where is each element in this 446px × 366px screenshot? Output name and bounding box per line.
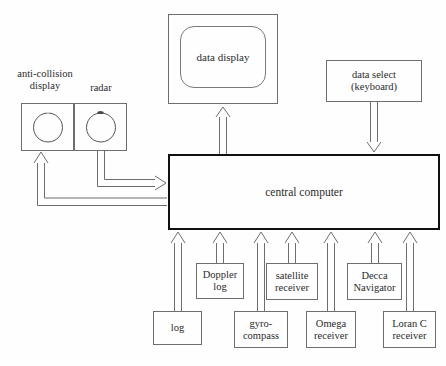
arrow-doppler-log-to-computer bbox=[213, 232, 227, 263]
sensor-label-line2: log bbox=[203, 281, 237, 293]
sensor-label-line1: gyro- bbox=[243, 318, 279, 330]
anti-collision-display-label-line1: anti-collision bbox=[17, 68, 72, 79]
sensor-box-decca-navigator[interactable]: DeccaNavigator bbox=[347, 263, 402, 300]
sensor-label-line2: compass bbox=[243, 330, 279, 342]
sensor-label-line2: receiver bbox=[392, 330, 427, 342]
sensor-label-line2: receiver bbox=[275, 282, 309, 294]
sensor-box-log[interactable]: log bbox=[153, 311, 202, 345]
sensor-label-line2: receiver bbox=[314, 330, 348, 342]
data-display-screen: data display bbox=[180, 26, 266, 88]
sensor-box-satellite-receiver[interactable]: satellitereceiver bbox=[266, 263, 318, 300]
data-select-label-line2: (keyboard) bbox=[351, 81, 397, 93]
anti-collision-display-label-line2: display bbox=[30, 80, 60, 91]
arrow-decca-navigator-to-computer bbox=[368, 232, 382, 263]
data-display-label: data display bbox=[197, 51, 250, 63]
data-select-box[interactable]: data select (keyboard) bbox=[326, 60, 422, 102]
arrow-computer-to-data-display bbox=[216, 107, 230, 154]
central-computer-label: central computer bbox=[265, 186, 343, 199]
sensor-label-line1: Decca bbox=[354, 270, 396, 282]
sensor-box-omega-receiver[interactable]: Omegareceiver bbox=[306, 311, 356, 348]
sensor-label-line1: Loran C bbox=[392, 318, 427, 330]
anti-collision-display-box[interactable] bbox=[21, 103, 74, 151]
sensor-label-line1: Omega bbox=[314, 318, 348, 330]
sensor-box-gyro-compass[interactable]: gyro-compass bbox=[234, 311, 288, 348]
arrow-radar-to-computer bbox=[98, 151, 167, 190]
arrow-omega-receiver-to-computer bbox=[324, 232, 338, 311]
arrow-data-select-to-computer bbox=[367, 102, 381, 152]
central-computer-box[interactable]: central computer bbox=[168, 154, 440, 230]
radar-label-text: radar bbox=[90, 82, 112, 93]
sensor-label-line1: log bbox=[171, 322, 184, 334]
arrow-satellite-receiver-to-computer bbox=[285, 232, 299, 263]
sensor-box-loran-c-receiver[interactable]: Loran Creceiver bbox=[383, 311, 436, 348]
sensor-label-line2: Navigator bbox=[354, 282, 396, 294]
data-select-label-line1: data select bbox=[351, 69, 397, 81]
block-diagram: anti-collision display radar data displa… bbox=[0, 0, 446, 366]
radar-box[interactable] bbox=[74, 103, 127, 151]
sensor-label-line1: Doppler bbox=[203, 269, 237, 281]
radar-label: radar bbox=[76, 82, 126, 94]
sensor-box-doppler-log[interactable]: Dopplerlog bbox=[196, 263, 244, 299]
arrow-computer-to-anti-collision bbox=[34, 152, 167, 206]
sensor-label-line1: satellite bbox=[275, 270, 309, 282]
arrow-loran-c-receiver-to-computer bbox=[403, 232, 417, 311]
arrow-log-to-computer bbox=[171, 232, 185, 311]
anti-collision-display-label: anti-collision display bbox=[5, 68, 85, 92]
